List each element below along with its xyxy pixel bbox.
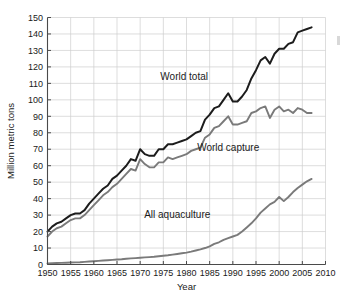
x-tick-label: 2005 — [292, 268, 312, 278]
y-tick-label: 50 — [33, 177, 43, 187]
x-tick-label: 1960 — [84, 268, 104, 278]
y-tick-label: 140 — [28, 29, 43, 39]
x-tick-label: 1990 — [223, 268, 243, 278]
y-tick-label: 130 — [28, 46, 43, 56]
y-tick-label: 150 — [28, 13, 43, 23]
y-tick-label: 110 — [29, 79, 43, 89]
series-annotation-world-capture: World capture — [197, 142, 260, 153]
chart-figure: 0102030405060708090100110120130140150 19… — [0, 0, 348, 300]
y-tick-label: 120 — [28, 62, 43, 72]
series-annotation-all-aquaculture: All aquaculture — [144, 209, 211, 220]
y-tick-label: 100 — [28, 95, 43, 105]
y-tick-label: 70 — [33, 144, 43, 154]
x-tick-label: 1985 — [200, 268, 220, 278]
x-tick-label: 1980 — [176, 268, 196, 278]
x-tick-label: 1955 — [61, 268, 81, 278]
y-axis-title: Million metric tons — [5, 103, 16, 179]
x-tick-label: 1995 — [246, 268, 266, 278]
x-tick-label: 2010 — [315, 268, 335, 278]
x-axis-title: Year — [177, 281, 196, 292]
y-tick-label: 60 — [33, 161, 43, 171]
scan-artifact-speck — [337, 36, 340, 45]
x-tick-label: 1970 — [130, 268, 150, 278]
x-tick-label: 2000 — [269, 268, 289, 278]
fisheries-production-line-chart: 0102030405060708090100110120130140150 19… — [0, 0, 348, 300]
x-tick-label: 1965 — [107, 268, 127, 278]
y-tick-label: 20 — [33, 227, 43, 237]
y-tick-label: 40 — [33, 194, 43, 204]
y-tick-label: 90 — [33, 112, 43, 122]
x-tick-label: 1975 — [153, 268, 173, 278]
x-tick-label: 1950 — [37, 268, 57, 278]
y-tick-label: 80 — [33, 128, 43, 138]
y-tick-label: 30 — [33, 210, 43, 220]
y-tick-label: 10 — [33, 243, 43, 253]
series-annotation-world-total: World total — [160, 71, 208, 82]
